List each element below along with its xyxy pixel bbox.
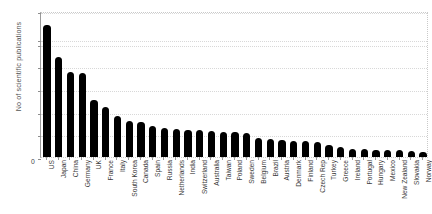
x-tick-mark (69, 157, 70, 160)
x-tick-label: Italy (119, 160, 126, 172)
x-tick-mark (316, 157, 317, 160)
x-tick-label: Canada (142, 160, 149, 183)
x-tick-label: Slovakia (413, 160, 420, 185)
x-tick-mark (258, 157, 259, 160)
bar (314, 142, 321, 157)
x-tick-mark (352, 157, 353, 160)
x-tick-mark (246, 157, 247, 160)
x-tick-mark (116, 157, 117, 160)
x-tick-mark (305, 157, 306, 160)
x-tick-label: South Korea (131, 160, 138, 197)
x-tick-label: China (72, 160, 79, 177)
x-tick-mark (187, 157, 188, 160)
x-tick-label: Hungary (377, 160, 384, 185)
x-tick-mark (46, 157, 47, 160)
x-tick-label: US (48, 160, 55, 169)
y-tick-label-zero: 0 (31, 158, 35, 165)
bar (361, 149, 368, 157)
x-tick-label: Switzerland (201, 160, 208, 194)
bar (43, 25, 50, 157)
bar (114, 116, 121, 157)
x-tick-mark (340, 157, 341, 160)
bar (325, 145, 332, 157)
bar (290, 141, 297, 157)
bar (372, 150, 379, 157)
x-tick-label: New Zealand (401, 160, 408, 199)
x-tick-label: Taiwan (225, 160, 232, 181)
x-tick-label: Brazil (272, 160, 279, 177)
bar (267, 139, 274, 157)
bar (278, 140, 285, 157)
x-tick-mark (387, 157, 388, 160)
x-tick-mark (152, 157, 153, 160)
x-tick-label: Poland (236, 160, 243, 181)
x-tick-mark (105, 157, 106, 160)
x-tick-mark (199, 157, 200, 160)
x-tick-label: India (189, 160, 196, 174)
x-tick-label: Spain (154, 160, 161, 177)
x-tick-mark (163, 157, 164, 160)
bar (55, 57, 62, 157)
x-tick-label: Japan (60, 160, 67, 178)
y-axis-title: No of scientific publications (14, 0, 23, 137)
x-tick-label: France (107, 160, 114, 181)
x-tick-label: Russia (166, 160, 173, 180)
bar (126, 121, 133, 157)
x-tick-mark (281, 157, 282, 160)
x-tick-mark (58, 157, 59, 160)
x-tick-mark (175, 157, 176, 160)
x-tick-label: Ireland (354, 160, 361, 180)
x-tick-label: Norway (425, 160, 432, 182)
x-tick-label: UK (95, 160, 102, 169)
bar (79, 73, 86, 157)
x-tick-label: Denmark (295, 160, 302, 187)
x-tick-mark (363, 157, 364, 160)
bar (173, 129, 180, 157)
x-tick-mark (422, 157, 423, 160)
bar (196, 130, 203, 157)
x-tick-label: Czech Rep (319, 160, 326, 193)
bar (255, 138, 262, 157)
bar (302, 141, 309, 157)
x-tick-mark (269, 157, 270, 160)
bar (149, 126, 156, 157)
bar (243, 133, 250, 157)
bar (137, 122, 144, 157)
x-axis-labels: USJapanChinaGermanyUKFranceItalySouth Ko… (40, 160, 428, 214)
bar (184, 130, 191, 157)
x-tick-mark (222, 157, 223, 160)
bar (419, 152, 426, 157)
bar (90, 100, 97, 157)
bar (231, 132, 238, 157)
x-tick-mark (140, 157, 141, 160)
bar (408, 151, 415, 157)
x-tick-label: Turkey (330, 160, 337, 180)
bar-chart: No of scientific publications 0 02000400… (0, 0, 432, 214)
x-tick-label: Australia (213, 160, 220, 186)
x-tick-mark (293, 157, 294, 160)
bar (67, 72, 74, 157)
bar (337, 147, 344, 157)
x-tick-label: Greece (342, 160, 349, 182)
bar (396, 150, 403, 157)
bar (349, 149, 356, 157)
x-tick-mark (234, 157, 235, 160)
bar (220, 132, 227, 157)
bar (102, 107, 109, 157)
x-tick-label: Portugal (366, 160, 373, 185)
x-tick-mark (410, 157, 411, 160)
bar (161, 128, 168, 157)
x-tick-mark (328, 157, 329, 160)
x-tick-label: Germany (84, 160, 91, 187)
plot-area: 0200040006000800010,00018,00020,000 (40, 12, 428, 158)
x-tick-label: Austria (283, 160, 290, 181)
x-tick-label: Mexico (389, 160, 396, 181)
x-tick-label: Netherlands (178, 160, 185, 196)
bar (208, 131, 215, 157)
x-tick-mark (93, 157, 94, 160)
x-tick-label: Finland (307, 160, 314, 182)
x-tick-mark (399, 157, 400, 160)
x-tick-mark (375, 157, 376, 160)
x-tick-mark (128, 157, 129, 160)
x-tick-mark (210, 157, 211, 160)
